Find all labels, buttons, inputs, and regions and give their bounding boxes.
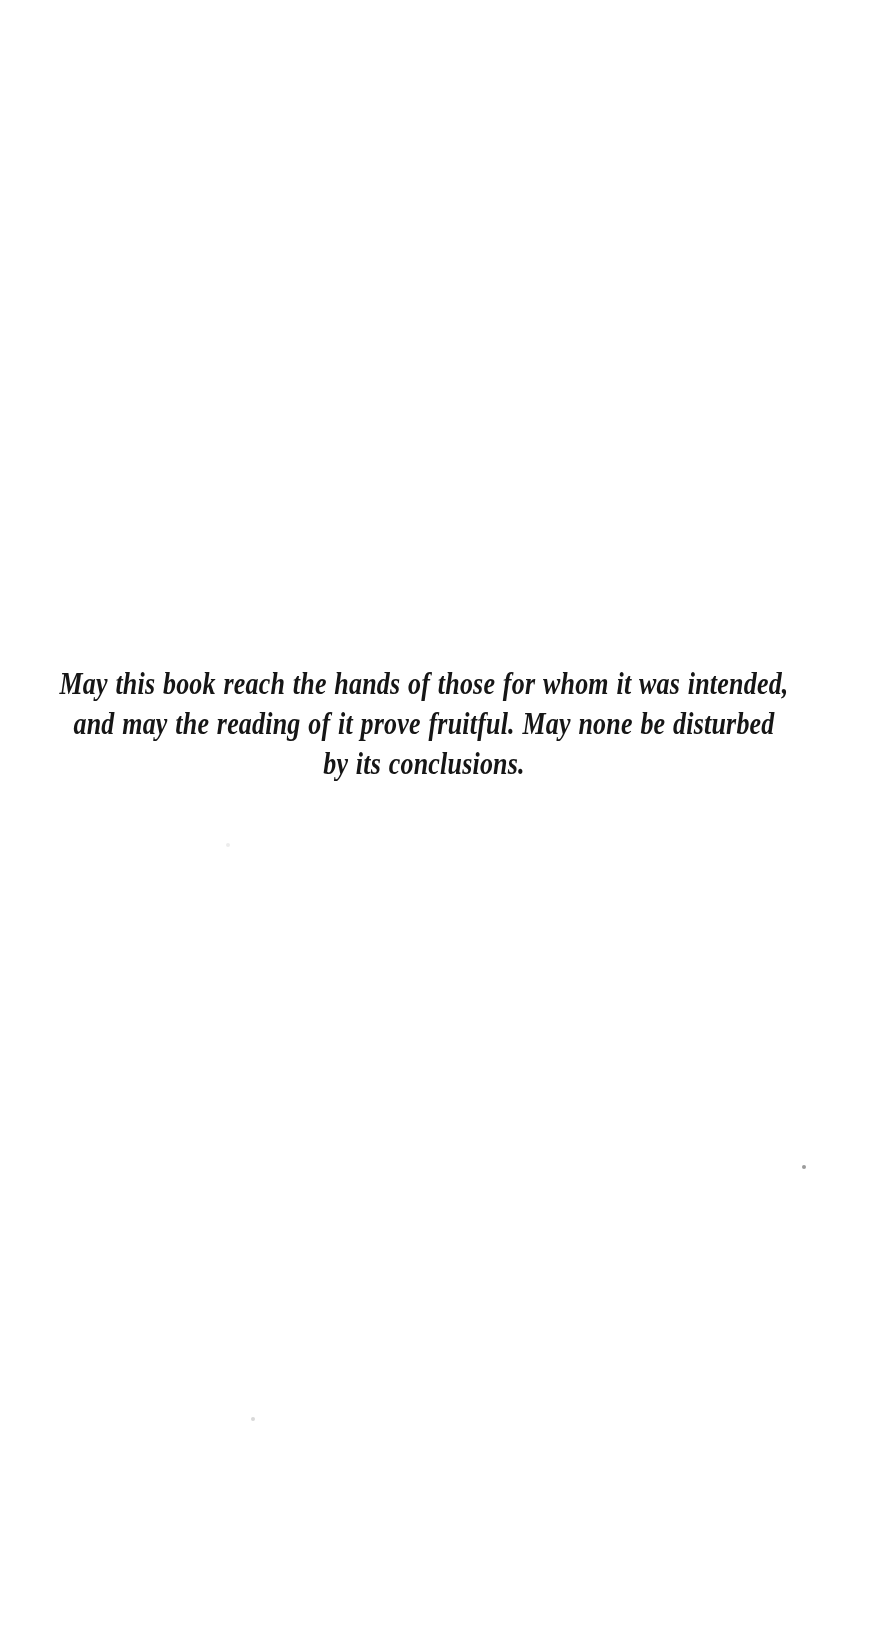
dedication-text: May this book reach the hands of those f… [0, 664, 848, 784]
book-page: May this book reach the hands of those f… [0, 0, 886, 1636]
dust-speck [802, 1165, 806, 1169]
dust-speck [251, 1417, 255, 1421]
dedication-line-2: and may the reading of it prove fruitful… [0, 704, 848, 744]
dedication-line-3: by its conclusions. [0, 744, 848, 784]
dedication-line-1: May this book reach the hands of those f… [0, 664, 848, 704]
dust-speck [226, 843, 230, 847]
